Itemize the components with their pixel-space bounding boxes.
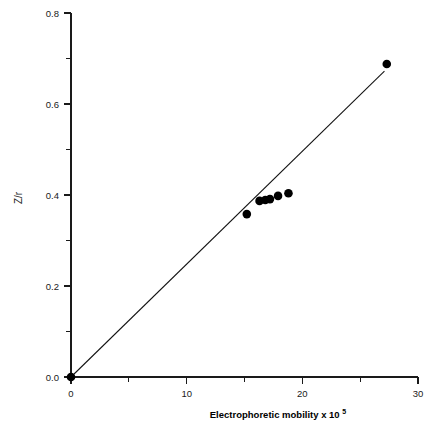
data-point-marker (284, 189, 293, 198)
y-axis-ticks (64, 13, 71, 377)
fit-line-segment (71, 71, 384, 377)
x-axis-title-exponent: 5 (342, 408, 346, 415)
y-axis-title-text: Z/r (13, 191, 24, 204)
data-point-marker (67, 373, 76, 382)
x-axis-tick-labels: 0102030 (68, 388, 423, 399)
y-axis-tick-labels: 0.00.20.40.60.8 (46, 8, 59, 383)
x-axis-title-text: Electrophoretic mobility x 10 5 (210, 408, 347, 420)
scatter-plot-figure: 0.00.20.40.60.8 0102030 Electrophoretic … (0, 0, 437, 430)
data-point-marker (382, 60, 391, 69)
x-tick-label: 20 (297, 388, 308, 399)
x-tick-label: 10 (181, 388, 192, 399)
data-point-marker (243, 210, 252, 219)
x-tick-label: 0 (68, 388, 73, 399)
plot-canvas: 0.00.20.40.60.8 0102030 Electrophoretic … (0, 0, 437, 430)
y-tick-label: 0.0 (46, 372, 59, 383)
y-axis-title: Z/r (13, 191, 24, 204)
y-tick-label: 0.4 (46, 190, 59, 201)
regression-line (71, 71, 384, 377)
data-point-marker (266, 195, 275, 204)
y-tick-label: 0.2 (46, 281, 59, 292)
y-tick-label: 0.8 (46, 8, 59, 19)
data-point-marker (274, 192, 283, 201)
x-axis-title: Electrophoretic mobility x 10 5 (210, 408, 347, 420)
y-tick-label: 0.6 (46, 99, 59, 110)
axes (71, 13, 418, 377)
x-tick-label: 30 (413, 388, 424, 399)
x-axis-title-base: Electrophoretic mobility x 10 (210, 409, 343, 420)
x-axis-ticks (71, 377, 418, 384)
